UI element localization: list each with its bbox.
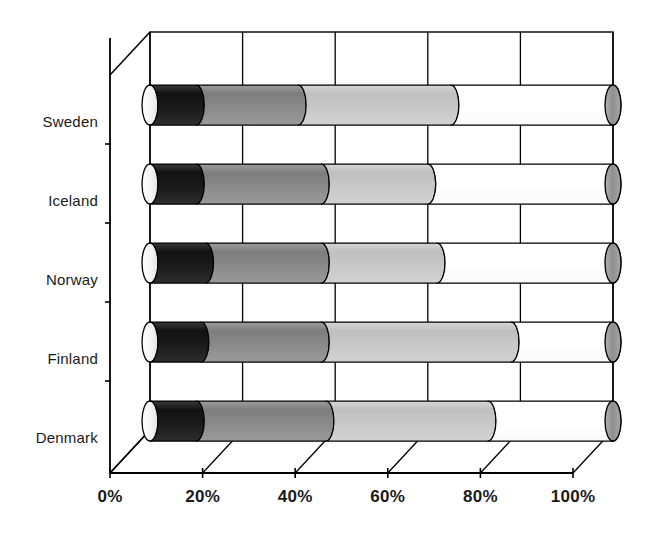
y-axis-label-norway: Norway xyxy=(0,271,98,288)
y-axis-label-iceland: Iceland xyxy=(0,192,98,209)
cylinder-bar[interactable] xyxy=(142,243,621,283)
cylinder-right-cap xyxy=(605,322,621,362)
cylinder-segment[interactable] xyxy=(150,243,214,283)
cylinder-bar[interactable] xyxy=(142,322,621,362)
cylinder-segment[interactable] xyxy=(201,322,329,362)
x-axis-label-80: 80% xyxy=(435,487,525,507)
y-axis-label-finland: Finland xyxy=(0,350,98,367)
cylinder-segment[interactable] xyxy=(150,401,204,441)
cylinder-bar[interactable] xyxy=(142,164,621,204)
cylinder-segment[interactable] xyxy=(451,85,621,125)
cylinder-segment[interactable] xyxy=(196,401,334,441)
cylinder-segment[interactable] xyxy=(196,164,329,204)
floor-left-edge xyxy=(110,430,150,473)
y-axis-label-sweden: Sweden xyxy=(0,113,98,130)
y-axis-label-denmark: Denmark xyxy=(0,429,98,446)
cylinder-right-cap xyxy=(605,164,621,204)
cylinder-segment[interactable] xyxy=(196,85,306,125)
cylinder-segment[interactable] xyxy=(321,164,435,204)
cylinder-bar[interactable] xyxy=(142,401,621,441)
cylinder-segment[interactable] xyxy=(488,401,621,441)
cylinder-segment[interactable] xyxy=(150,164,204,204)
cylinder-segment[interactable] xyxy=(321,322,519,362)
cylinder-segment[interactable] xyxy=(298,85,459,125)
cylinder-segment[interactable] xyxy=(321,243,445,283)
cylinder-bar[interactable] xyxy=(142,85,621,125)
wall-top-left-edge xyxy=(110,32,150,75)
cylinder-segment[interactable] xyxy=(150,322,209,362)
stacked-cylinder-chart: SwedenIcelandNorwayFinlandDenmark 0%20%4… xyxy=(0,0,652,539)
x-axis-label-20: 20% xyxy=(158,487,248,507)
x-axis-label-40: 40% xyxy=(250,487,340,507)
cylinder-right-cap xyxy=(605,243,621,283)
cylinder-segment[interactable] xyxy=(150,85,204,125)
chart-canvas xyxy=(0,0,652,539)
cylinder-right-cap xyxy=(605,401,621,441)
cylinder-right-cap xyxy=(605,85,621,125)
x-axis-label-0: 0% xyxy=(65,487,155,507)
x-axis-label-100: 100% xyxy=(528,487,618,507)
cylinder-segment[interactable] xyxy=(326,401,496,441)
cylinder-segment[interactable] xyxy=(428,164,621,204)
cylinder-segment[interactable] xyxy=(437,243,621,283)
cylinder-segment[interactable] xyxy=(206,243,330,283)
x-axis-label-60: 60% xyxy=(343,487,433,507)
